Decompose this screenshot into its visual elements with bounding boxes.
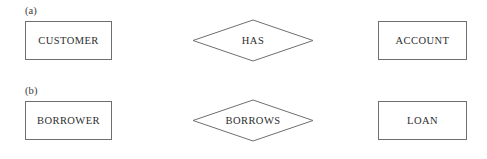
entity-label-account: ACCOUNT (396, 35, 450, 46)
relationship-label-borrows: BORROWS (192, 99, 314, 142)
relationship-diamond-borrows: BORROWS (192, 99, 314, 142)
entity-label-borrower: BORROWER (37, 115, 100, 126)
entity-box-account: ACCOUNT (378, 21, 467, 60)
relationship-label-has: HAS (192, 19, 314, 62)
part-label-b: (b) (25, 85, 38, 97)
entity-box-customer: CUSTOMER (25, 21, 112, 60)
part-label-a: (a) (25, 5, 37, 17)
er-diagram: (a) CUSTOMER HAS ACCOUNT (b) BORROWER BO… (0, 0, 487, 159)
entity-box-borrower: BORROWER (25, 101, 112, 140)
relationship-diamond-has: HAS (192, 19, 314, 62)
entity-label-loan: LOAN (407, 115, 438, 126)
entity-label-customer: CUSTOMER (38, 35, 99, 46)
entity-box-loan: LOAN (378, 101, 467, 140)
